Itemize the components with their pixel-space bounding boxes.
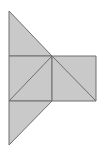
- bottom-triangle: [9, 101, 52, 145]
- geometric-net-diagram: [0, 0, 109, 153]
- top-triangle: [9, 11, 52, 56]
